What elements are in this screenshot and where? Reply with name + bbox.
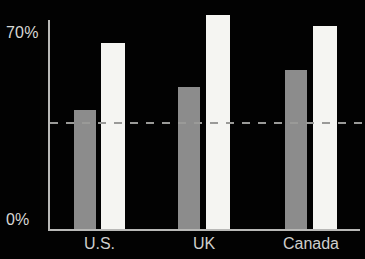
bar-canada-white: [313, 26, 337, 229]
plot-area: [50, 8, 360, 229]
bar-chart: 70% 0% U.S. UK Canada: [0, 0, 365, 259]
x-axis-category-label-canada: Canada: [251, 235, 365, 253]
bar-canada-gray: [285, 70, 307, 229]
bar-uk-gray: [178, 87, 200, 229]
bar-us-white: [101, 43, 125, 229]
reference-line: [50, 122, 365, 124]
y-axis-tick-label-top: 70%: [6, 24, 39, 42]
y-axis-tick-label-bottom: 0%: [6, 211, 30, 229]
x-axis-category-label-uk: UK: [144, 235, 264, 253]
bar-us-gray: [74, 110, 96, 229]
x-axis-category-label-us: U.S.: [40, 235, 160, 253]
x-axis-line: [48, 229, 360, 231]
